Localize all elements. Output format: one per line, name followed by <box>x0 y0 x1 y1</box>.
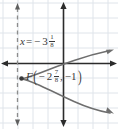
coordinate-plane-graph <box>0 0 118 129</box>
parabola-curve <box>22 50 115 114</box>
parabola-figure: x=−318 F(−278,−1) <box>0 0 118 129</box>
focus-point <box>19 76 24 81</box>
